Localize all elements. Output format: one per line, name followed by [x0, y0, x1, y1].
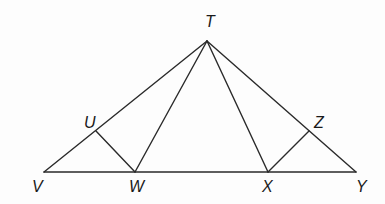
- geometry-diagram: T U V W X Y Z: [0, 0, 385, 204]
- segment-tv: [44, 41, 207, 172]
- segments-group: [44, 41, 356, 172]
- point-label-x: X: [261, 178, 274, 195]
- point-label-v: V: [32, 178, 44, 195]
- segment-tx: [207, 41, 268, 172]
- segment-tw: [135, 41, 207, 172]
- point-label-w: W: [129, 178, 146, 195]
- segment-uw: [96, 131, 135, 172]
- labels-group: T U V W X Y Z: [32, 13, 368, 195]
- segment-xz: [268, 131, 309, 172]
- point-label-t: T: [205, 13, 216, 30]
- point-label-u: U: [84, 114, 96, 131]
- point-label-z: Z: [313, 114, 325, 131]
- point-label-y: Y: [356, 178, 368, 195]
- diagram-canvas: T U V W X Y Z: [0, 0, 385, 204]
- segment-ty: [207, 41, 356, 172]
